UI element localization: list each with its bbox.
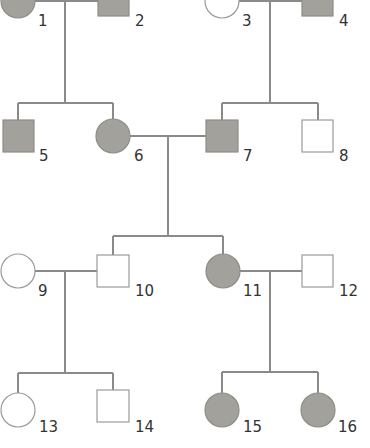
male-affected-symbol xyxy=(3,120,34,152)
individual-label: 7 xyxy=(243,147,253,165)
connector-lines xyxy=(18,1,318,393)
individual-5: 5 xyxy=(3,120,49,165)
individual-label: 11 xyxy=(243,282,262,300)
male-unaffected-symbol xyxy=(302,255,333,287)
female-unaffected-symbol xyxy=(1,393,35,427)
individual-3: 3 xyxy=(205,0,252,30)
female-affected-symbol xyxy=(96,119,130,153)
individual-2: 2 xyxy=(98,0,145,30)
individual-15: 15 xyxy=(205,393,262,436)
female-unaffected-symbol xyxy=(205,0,239,18)
individual-label: 10 xyxy=(135,282,154,300)
male-affected-symbol xyxy=(98,0,129,16)
individual-label: 6 xyxy=(134,147,144,165)
individual-13: 13 xyxy=(1,393,58,436)
individual-6: 6 xyxy=(96,119,144,165)
individual-4: 4 xyxy=(302,0,349,30)
individual-14: 14 xyxy=(97,390,154,436)
male-unaffected-symbol xyxy=(97,390,129,422)
individual-label: 4 xyxy=(339,12,349,30)
female-affected-symbol xyxy=(301,393,335,427)
male-unaffected-symbol xyxy=(97,255,129,287)
individual-9: 9 xyxy=(1,254,48,300)
pedigree-diagram: 1 2 3 4 5 6 7 8 9 10 11 12 xyxy=(0,0,370,448)
individual-label: 12 xyxy=(339,282,358,300)
female-affected-symbol xyxy=(205,393,239,427)
male-unaffected-symbol xyxy=(302,120,333,152)
individual-label: 8 xyxy=(339,147,349,165)
female-affected-symbol xyxy=(206,254,240,288)
individual-label: 15 xyxy=(243,418,262,436)
individual-label: 14 xyxy=(135,418,154,436)
individual-label: 16 xyxy=(338,418,357,436)
male-affected-symbol xyxy=(206,120,238,152)
individual-7: 7 xyxy=(206,120,253,165)
female-unaffected-symbol xyxy=(1,254,35,288)
female-affected-symbol xyxy=(1,0,35,18)
individual-label: 9 xyxy=(38,282,48,300)
individual-8: 8 xyxy=(302,120,349,165)
individual-16: 16 xyxy=(301,393,357,436)
individual-label: 3 xyxy=(242,12,252,30)
individual-12: 12 xyxy=(302,255,358,300)
male-affected-symbol xyxy=(302,0,333,16)
individual-1: 1 xyxy=(1,0,48,30)
individual-label: 13 xyxy=(39,418,58,436)
individual-11: 11 xyxy=(206,254,262,300)
individual-label: 5 xyxy=(39,147,49,165)
individual-label: 1 xyxy=(38,12,48,30)
individual-label: 2 xyxy=(135,12,145,30)
individual-10: 10 xyxy=(97,255,154,300)
